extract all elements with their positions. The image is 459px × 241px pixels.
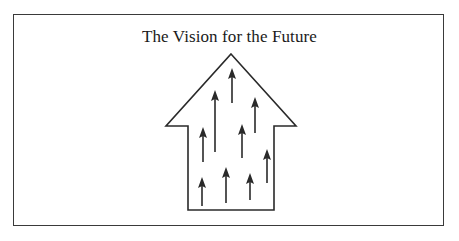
arrow-bottom-center-icon [222, 167, 230, 203]
arrow-bottom-right-icon [246, 173, 254, 200]
arrow-tall-left-icon [211, 90, 219, 152]
arrow-bottom-left-icon [198, 177, 206, 206]
upward-arrows-group [198, 68, 271, 206]
vision-diagram [0, 0, 459, 241]
arrow-mid-center-icon [238, 124, 246, 158]
arrow-top-center-icon [228, 68, 236, 103]
arrow-mid-left-icon [199, 127, 207, 162]
arrow-upper-right-icon [251, 97, 259, 133]
arrow-lower-right-icon [263, 149, 271, 183]
